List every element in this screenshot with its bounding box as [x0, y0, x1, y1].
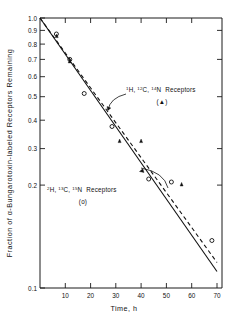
x-tick-label: 60 — [188, 292, 196, 299]
y-tick-label: 0.9 — [28, 27, 37, 34]
y-tick-label: 1.0 — [28, 15, 37, 22]
x-tick-label: 20 — [87, 292, 95, 299]
svg-text:1H, 12C, 14N Receptors: 1H, 12C, 14N Receptors — [126, 86, 196, 94]
data-point-filled-triangle — [180, 182, 183, 186]
data-point-open-circle — [110, 125, 114, 129]
x-tick-label: 70 — [213, 292, 221, 299]
fit-line-heavy-isotope — [40, 18, 217, 272]
x-axis-title: Time, h — [110, 304, 137, 313]
annot-tail: Receptors — [86, 186, 117, 194]
annotation-heavy-isotope: 2H, 13C, 15N Receptors (o) — [47, 186, 117, 206]
fit-line-light-isotope — [40, 18, 217, 263]
y-axis-ticks — [40, 18, 45, 288]
data-point-open-circle — [210, 239, 214, 243]
data-point-open-circle — [169, 180, 173, 184]
y-tick-label: 0.7 — [28, 56, 37, 63]
data-point-open-circle — [82, 92, 86, 96]
semilog-decay-chart: 1.0 0.9 0.8 0.7 0.6 0.5 0.4 0.3 0.2 0.1 — [0, 0, 239, 323]
y-tick-label: 0.1 — [28, 285, 37, 292]
data-point-open-circle — [147, 177, 151, 181]
leader-arrowhead-light-isotope — [107, 107, 111, 111]
series-light-isotope-markers — [55, 34, 183, 186]
annot-symbol-circle: (o) — [79, 198, 87, 206]
figure-container: 1.0 0.9 0.8 0.7 0.6 0.5 0.4 0.3 0.2 0.1 — [0, 0, 239, 323]
annot-symbol-triangle: (▲) — [156, 98, 167, 106]
y-tick-label: 0.3 — [28, 145, 37, 152]
annot-tail: Receptors — [165, 86, 196, 94]
data-point-filled-triangle — [118, 139, 121, 143]
y-tick-label: 0.8 — [28, 41, 37, 48]
x-axis-ticks — [65, 283, 217, 288]
x-tick-label: 50 — [163, 292, 171, 299]
series-heavy-isotope-markers — [54, 32, 214, 243]
plot-frame — [40, 18, 222, 288]
y-tick-label: 0.6 — [28, 73, 37, 80]
leader-line-heavy-isotope — [141, 168, 168, 188]
annotation-light-isotope: 1H, 12C, 14N Receptors (▲) — [126, 86, 196, 106]
leader-line-light-isotope — [108, 94, 126, 110]
y-tick-label: 0.2 — [28, 182, 37, 189]
y-axis-tick-labels: 1.0 0.9 0.8 0.7 0.6 0.5 0.4 0.3 0.2 0.1 — [28, 15, 37, 292]
right-axis-ticks — [217, 30, 222, 185]
x-axis-tick-labels: 10 20 30 40 50 60 70 — [62, 292, 221, 299]
top-axis-ticks — [65, 18, 191, 23]
x-tick-label: 30 — [112, 292, 120, 299]
leader-arrowhead-heavy-isotope — [140, 169, 145, 173]
y-tick-label: 0.4 — [28, 117, 37, 124]
x-tick-label: 40 — [138, 292, 146, 299]
data-point-filled-triangle — [140, 139, 143, 143]
y-axis-title: Fraction of α-Bungarotoxin-labeled Recep… — [5, 49, 14, 258]
svg-text:2H, 13C, 15N Receptors: 2H, 13C, 15N Receptors — [47, 186, 117, 194]
x-tick-label: 10 — [62, 292, 70, 299]
y-tick-label: 0.5 — [28, 93, 37, 100]
